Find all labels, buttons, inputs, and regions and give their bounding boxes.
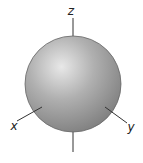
x-axis-label: x (9, 119, 18, 133)
sphere (25, 36, 121, 132)
z-axis-label: z (67, 4, 75, 18)
y-axis-label: y (126, 120, 135, 134)
s-orbital-diagram: z x y (0, 0, 143, 163)
